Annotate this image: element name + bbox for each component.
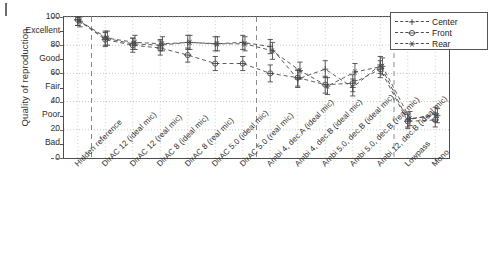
y-tick-60: 60 <box>14 67 60 77</box>
y-verbal-tick-stub <box>60 116 64 117</box>
data-point <box>239 56 246 70</box>
series-rear <box>77 17 441 126</box>
y-tick-40: 40 <box>14 95 60 105</box>
data-point <box>322 61 328 78</box>
y-verbal-good: Good <box>14 53 60 63</box>
legend-marker-icon <box>395 17 429 27</box>
y-tick-100: 100 <box>14 11 60 21</box>
data-point <box>184 48 191 62</box>
legend-marker-icon <box>395 39 429 49</box>
legend-box: CenterFrontRear <box>390 12 488 50</box>
y-verbal-poor: Poor <box>14 109 60 119</box>
y-verbal-tick-stub <box>60 31 64 32</box>
data-point <box>267 65 274 82</box>
figure-container: Quality of reproduction 020406080100BadP… <box>0 0 504 268</box>
legend-label: Front <box>432 28 452 38</box>
legend-item-rear[interactable]: Rear <box>395 38 483 49</box>
y-axis-tick-labels: 020406080100BadPoorFairGoodExcellent <box>10 0 60 268</box>
y-tick-dash <box>51 130 63 131</box>
y-verbal-bad: Bad <box>14 137 60 147</box>
y-tick-20: 20 <box>14 123 60 133</box>
page-crop-artifact <box>5 3 7 16</box>
y-verbal-fair: Fair <box>14 81 60 91</box>
y-tick-0: 0 <box>14 152 60 162</box>
legend-label: Rear <box>432 39 450 49</box>
y-verbal-tick-stub <box>60 59 64 60</box>
y-tick-dash <box>51 17 63 18</box>
legend-label: Center <box>432 17 458 27</box>
legend-marker-icon <box>395 28 429 38</box>
y-tick-dash <box>51 73 63 74</box>
data-point <box>212 56 219 70</box>
legend-item-front[interactable]: Front <box>395 27 483 38</box>
legend-item-center[interactable]: Center <box>395 16 483 27</box>
y-tick-dash <box>51 45 63 46</box>
y-verbal-tick-stub <box>60 144 64 145</box>
y-verbal-excellent: Excellent <box>14 25 60 35</box>
y-verbal-tick-stub <box>60 88 64 89</box>
y-tick-dash <box>51 102 63 103</box>
y-tick-dash <box>51 158 63 159</box>
y-tick-80: 80 <box>14 39 60 49</box>
